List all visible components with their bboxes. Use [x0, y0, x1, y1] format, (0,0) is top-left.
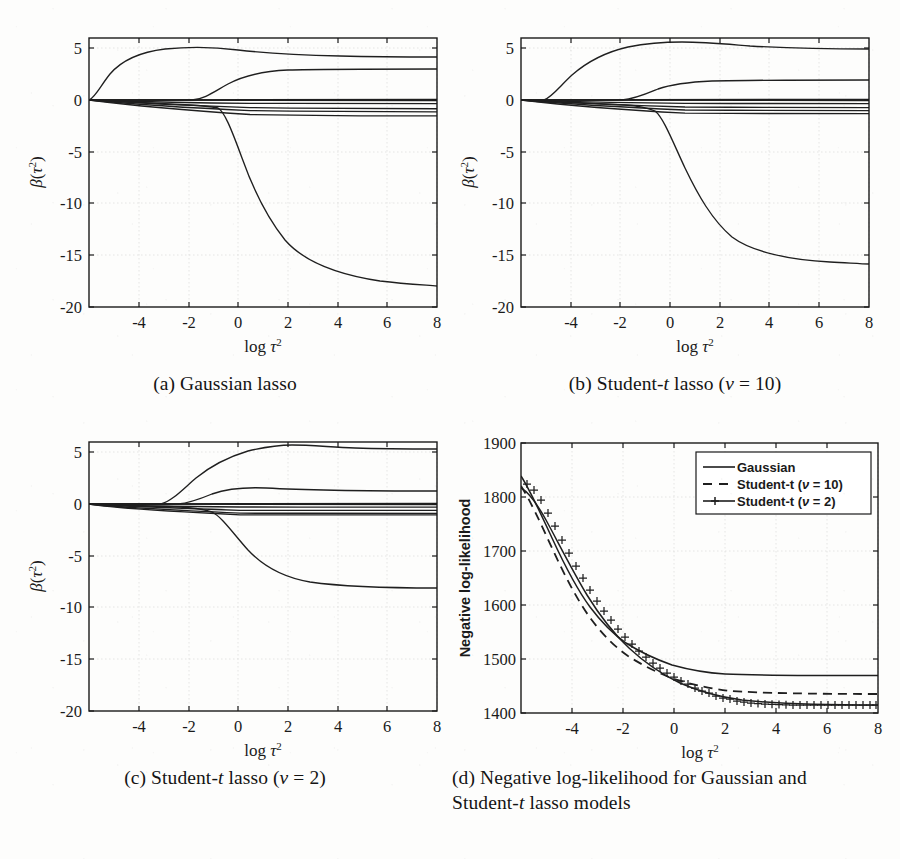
coefficient-paths-b	[521, 42, 869, 264]
plot-d: 190018001700 160015001400 -4-20 246 8 lo…	[450, 420, 900, 765]
ticks-c	[89, 442, 437, 711]
y-axis-label-b: β(τ2)	[458, 156, 478, 188]
series-student-t-nu10-d	[521, 486, 878, 694]
y-axis-label-c: β(τ2)	[26, 560, 46, 592]
svg-text:-5: -5	[68, 547, 82, 566]
svg-text:6: 6	[383, 313, 391, 332]
legend-label-gaussian: Gaussian	[737, 460, 796, 475]
svg-text:-20: -20	[60, 298, 82, 317]
panel-d-negative-log-likelihood: 190018001700 160015001400 -4-20 246 8 lo…	[450, 420, 900, 859]
caption-a: (a) Gaussian lasso	[0, 371, 450, 396]
x-axis-label-c: log τ2	[244, 740, 282, 760]
caption-b-prefix: (b)	[569, 373, 592, 394]
x-axis-label-d: log τ2	[681, 742, 719, 762]
svg-text:5: 5	[506, 39, 514, 58]
y-tick-labels-a: 50-5 -10-15-20	[60, 39, 82, 317]
caption-c: (c) Student-t lasso (ν = 2)	[0, 765, 450, 790]
svg-text:-15: -15	[60, 246, 82, 265]
svg-text:0: 0	[666, 313, 674, 332]
x-tick-labels-a: -4-20 246 8	[132, 313, 441, 332]
caption-c-prefix: (c)	[124, 767, 146, 788]
svg-text:6: 6	[815, 313, 823, 332]
y-tick-labels-b: 50-5 -10-15-20	[492, 39, 514, 317]
coefficient-paths-c	[89, 445, 437, 588]
svg-text:0: 0	[74, 91, 82, 110]
svg-text:6: 6	[383, 717, 391, 736]
svg-text:-2: -2	[182, 313, 196, 332]
axis-box-b	[521, 38, 869, 307]
x-tick-labels-b: -4-20 246 8	[564, 313, 873, 332]
legend-label-student-t-nu2: Student-t (ν = 2)	[737, 494, 836, 509]
y-tick-labels-d: 190018001700 160015001400	[483, 434, 516, 723]
svg-text:2: 2	[721, 719, 729, 738]
svg-text:1600: 1600	[483, 596, 516, 615]
x-tick-labels-d: -4-20 246 8	[565, 719, 882, 738]
svg-text:0: 0	[506, 91, 514, 110]
svg-text:-4: -4	[565, 719, 579, 738]
svg-text:1900: 1900	[483, 434, 516, 453]
svg-text:2: 2	[284, 717, 292, 736]
coefficient-paths-a	[89, 47, 437, 286]
svg-text:4: 4	[765, 313, 773, 332]
svg-text:1800: 1800	[483, 488, 516, 507]
caption-b: (b) Student-t lasso (ν = 10)	[450, 371, 900, 396]
y-axis-label-a: β(τ2)	[26, 156, 46, 188]
panel-b-student-t-nu10: 50-5 -10-15-20 -4-20 246 8 log τ2 β(τ2) …	[450, 0, 900, 420]
svg-text:-5: -5	[500, 143, 514, 162]
svg-text:8: 8	[433, 717, 441, 736]
svg-text:0: 0	[670, 719, 678, 738]
ticks-b	[521, 38, 869, 307]
svg-text:0: 0	[234, 717, 242, 736]
svg-text:5: 5	[74, 443, 82, 462]
ticks-a	[89, 38, 437, 307]
gridlines-b	[521, 38, 869, 307]
svg-text:-4: -4	[132, 313, 146, 332]
svg-text:-15: -15	[60, 650, 82, 669]
caption-c-text: Student-t lasso (ν = 2)	[151, 767, 326, 788]
svg-text:-20: -20	[492, 298, 514, 317]
svg-text:-2: -2	[613, 313, 627, 332]
caption-d-text: Negative log-likelihood for Gaussian and…	[452, 767, 807, 813]
svg-text:-15: -15	[492, 246, 514, 265]
gridlines-c	[89, 442, 437, 711]
plot-b: 50-5 -10-15-20 -4-20 246 8 log τ2 β(τ2)	[450, 0, 900, 370]
svg-text:8: 8	[433, 313, 441, 332]
axis-box-a	[89, 38, 437, 307]
svg-text:1700: 1700	[483, 542, 516, 561]
plot-a: 50-5 -10-15-20 -4-20 246 8 log τ2 β(τ2)	[0, 0, 450, 370]
x-axis-label-a: log τ2	[244, 336, 282, 356]
series-student-t-nu2-d	[521, 488, 878, 705]
svg-text:-20: -20	[60, 702, 82, 721]
gridlines-a	[89, 38, 437, 307]
svg-text:-4: -4	[132, 717, 146, 736]
svg-text:8: 8	[874, 719, 882, 738]
legend-d: Gaussian Student-t (ν = 10) Student-t (ν…	[696, 452, 871, 514]
svg-text:-10: -10	[492, 194, 514, 213]
svg-text:1400: 1400	[483, 704, 516, 723]
axis-box-c	[89, 442, 437, 711]
svg-text:-4: -4	[564, 313, 578, 332]
y-tick-labels-c: 50-5 -10-15-20	[60, 443, 82, 721]
svg-text:4: 4	[334, 313, 342, 332]
caption-d: (d) Negative log-likelihood for Gaussian…	[450, 765, 900, 815]
caption-a-prefix: (a)	[153, 373, 175, 394]
svg-text:4: 4	[334, 717, 342, 736]
svg-text:-2: -2	[182, 717, 196, 736]
caption-b-text: Student-t lasso (ν = 10)	[597, 373, 782, 394]
svg-text:-2: -2	[616, 719, 630, 738]
x-axis-label-b: log τ2	[676, 336, 714, 356]
svg-text:2: 2	[716, 313, 724, 332]
svg-text:5: 5	[74, 39, 82, 58]
caption-d-prefix: (d)	[452, 767, 475, 788]
svg-text:2: 2	[284, 313, 292, 332]
svg-text:0: 0	[74, 495, 82, 514]
svg-text:1500: 1500	[483, 650, 516, 669]
svg-text:8: 8	[865, 313, 873, 332]
svg-text:0: 0	[234, 313, 242, 332]
plot-c: 50-5 -10-15-20 -4-20 246 8 log τ2 β(τ2)	[0, 420, 450, 765]
svg-text:-10: -10	[60, 194, 82, 213]
svg-text:-10: -10	[60, 598, 82, 617]
caption-a-text: Gaussian lasso	[180, 373, 297, 394]
panel-a-gaussian-lasso: 50-5 -10-15-20 -4-20 246 8 log τ2 β(τ2) …	[0, 0, 450, 420]
svg-text:6: 6	[823, 719, 831, 738]
